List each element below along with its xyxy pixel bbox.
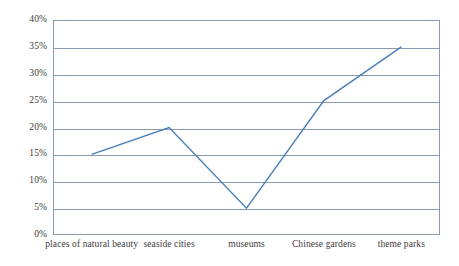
gridline [54, 209, 439, 210]
y-axis-tick-label: 15% [29, 150, 47, 160]
y-axis-tick-label: 40% [29, 15, 47, 25]
y-axis-tick-label: 30% [29, 69, 47, 79]
x-axis-tick-label: Chinese gardens [292, 240, 356, 250]
gridline [54, 102, 439, 103]
x-axis-tick-label: theme parks [378, 240, 425, 250]
y-axis-tick-label: 20% [29, 123, 47, 133]
x-axis-tick-label: places of natural beauty [45, 240, 138, 250]
line-chart: 0%5%10%15%20%25%30%35%40% places of natu… [0, 0, 459, 266]
x-axis: places of natural beautyseaside citiesmu… [0, 240, 459, 260]
y-axis-tick-label: 25% [29, 96, 47, 106]
y-axis-tick-label: 35% [29, 42, 47, 52]
plot-area [53, 20, 440, 235]
gridline [54, 48, 439, 49]
y-axis-tick-label: 10% [29, 177, 47, 187]
x-axis-tick-label: museums [228, 240, 265, 250]
y-axis-tick-label: 5% [34, 203, 47, 213]
y-axis: 0%5%10%15%20%25%30%35%40% [0, 0, 53, 266]
x-axis-tick-label: seaside cities [143, 240, 194, 250]
gridline [54, 182, 439, 183]
gridline [54, 129, 439, 130]
gridline [54, 155, 439, 156]
gridline [54, 75, 439, 76]
